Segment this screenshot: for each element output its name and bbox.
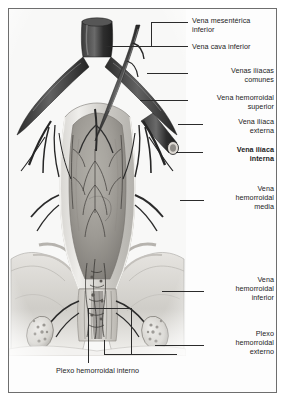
label-vena-hemorroidal-superior: Vena hemorroidal superior bbox=[192, 93, 274, 111]
label-vena-mesenterica-inferior: Vena mesentérica inferior bbox=[192, 16, 278, 34]
leader-plexo-interno-bracket-top bbox=[88, 308, 132, 309]
anatomical-illustration bbox=[9, 9, 186, 356]
vignette-overlay bbox=[9, 9, 186, 356]
leader-plexo-interno-right-vertical bbox=[131, 308, 132, 354]
label-vena-hemorroidal-media: Vena hemorroidal media bbox=[192, 184, 274, 212]
label-plexo-hemorroidal-interno: Plexo hemorroidal interno bbox=[56, 366, 196, 375]
label-vena-iliaca-interna: Vena ilíaca interna bbox=[192, 145, 274, 163]
label-venas-iliacas-comunes: Venas ilíacas comunes bbox=[192, 66, 274, 84]
leader-vena-mesenterica-inferior-vertical bbox=[151, 22, 152, 46]
label-plexo-hemorroidal-externo: Plexo hemorroidal externo bbox=[192, 329, 274, 357]
leader-plexo-interno-bracket-bottom bbox=[104, 354, 177, 355]
leader-venas-iliacas-comunes bbox=[147, 73, 188, 74]
leader-vena-mesenterica-inferior-horizontal bbox=[151, 22, 188, 23]
leader-plexo-interno-mid-vertical bbox=[104, 340, 105, 355]
label-vena-hemorroidal-inferior: Vena hemorroidal inferior bbox=[192, 275, 274, 303]
leader-plexo-interno-left-vertical bbox=[88, 308, 89, 363]
figure-root: Vena mesentérica inferior Vena cava infe… bbox=[0, 0, 286, 398]
leader-vena-hemorroidal-superior bbox=[140, 100, 188, 101]
label-vena-cava-inferior: Vena cava inferior bbox=[192, 42, 278, 51]
label-vena-iliaca-externa: Vena ilíaca externa bbox=[192, 117, 274, 135]
leader-vena-cava-inferior bbox=[105, 46, 188, 47]
